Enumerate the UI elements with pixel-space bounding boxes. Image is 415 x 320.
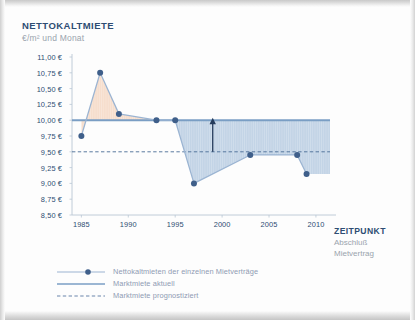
y-tick-950: 9,50 € [18, 148, 62, 157]
x-tick-1990: 1990 [108, 220, 148, 229]
x-tick-2010: 2010 [296, 220, 336, 229]
x-axis-subtitle-2: Mietvertrag [334, 249, 374, 258]
data-point-2009[interactable] [304, 171, 310, 177]
data-point-1993[interactable] [153, 117, 159, 123]
y-tick-975: 9,75 € [18, 132, 62, 141]
y-tick-925: 9,25 € [18, 164, 62, 173]
y-tick-1050: 10,50 € [18, 85, 62, 94]
x-tick-2000: 2000 [202, 220, 242, 229]
legend-marker [85, 269, 91, 275]
data-point-2003[interactable] [247, 152, 253, 158]
y-tick-1100: 11,00 € [18, 53, 62, 62]
fill-above-market-orange [81, 73, 156, 136]
y-tick-850: 8,50 € [18, 211, 62, 220]
y-tick-1000: 10,00 € [18, 116, 62, 125]
x-tick-1985: 1985 [61, 220, 101, 229]
legend-key-line-with-marker [55, 266, 107, 278]
legend-key-dashed-line [55, 290, 107, 302]
y-tick-900: 9,00 € [18, 179, 62, 188]
data-point-1985[interactable] [78, 133, 84, 139]
figure-frame: NETTOKALTMIETE €/m² und Monat 11,00 €10,… [0, 0, 415, 320]
x-axis-title: ZEITPUNKT [334, 226, 386, 236]
data-point-1995[interactable] [172, 117, 178, 123]
x-tick-1995: 1995 [155, 220, 195, 229]
data-point-1987[interactable] [97, 70, 103, 76]
legend-label-2: Marktmiete prognostiziert [113, 291, 198, 300]
y-tick-875: 8,75 € [18, 195, 62, 204]
legend-label-1: Marktmiete aktuell [113, 279, 175, 288]
x-axis-subtitle-1: Abschluß [334, 238, 367, 247]
data-point-2008[interactable] [294, 152, 300, 158]
y-tick-1075: 10,75 € [18, 69, 62, 78]
legend-key-solid-line [55, 278, 107, 290]
x-tick-2005: 2005 [249, 220, 289, 229]
data-point-1989[interactable] [116, 111, 122, 117]
legend-label-0: Nettokaltmieten der einzelnen Mietverträ… [113, 267, 258, 276]
data-point-1997[interactable] [191, 180, 197, 186]
y-tick-1025: 10,25 € [18, 100, 62, 109]
